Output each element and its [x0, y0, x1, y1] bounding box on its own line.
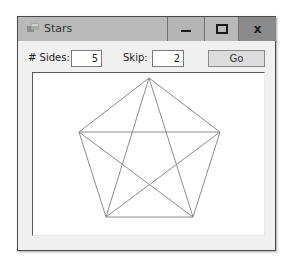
drawing-canvas: [32, 72, 265, 236]
star-edge: [106, 132, 220, 217]
close-button[interactable]: x: [238, 17, 276, 41]
go-button[interactable]: Go: [208, 50, 265, 67]
minimize-button[interactable]: [167, 17, 204, 41]
star-edge: [149, 78, 193, 217]
sides-input[interactable]: 5: [71, 50, 102, 67]
star-edge: [106, 78, 149, 217]
maximize-button[interactable]: [204, 17, 238, 41]
sides-label: # Sides:: [28, 52, 70, 63]
star-edge: [79, 132, 193, 217]
maximize-icon: [216, 24, 228, 34]
pentagon-edge: [149, 78, 220, 132]
app-icon: [27, 23, 39, 34]
stars-window: Stars x # Sides: 5 Skip: 2 Go: [17, 16, 276, 251]
pentagon-edge: [79, 132, 106, 217]
skip-input[interactable]: 2: [152, 50, 184, 67]
pentagon-edge: [193, 132, 220, 217]
close-icon: x: [254, 22, 262, 36]
minimize-icon: [181, 30, 191, 32]
star-drawing: [33, 73, 266, 237]
skip-label: Skip:: [123, 52, 148, 63]
title-bar[interactable]: Stars x: [18, 17, 275, 41]
window-title: Stars: [44, 22, 72, 35]
pentagon-edge: [79, 78, 149, 132]
